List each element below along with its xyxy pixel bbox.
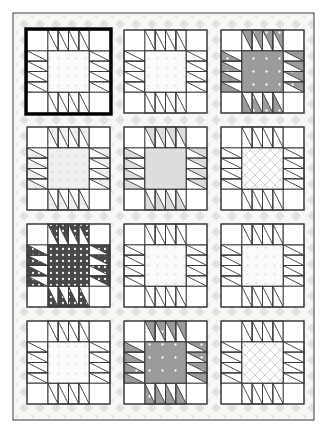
quilt-canvas [0,0,328,433]
block-corner-square [27,127,48,148]
block-center-square [48,51,90,93]
quilt-block[interactable] [27,224,110,307]
block-corner-square [221,30,242,51]
block-center-square [145,342,187,384]
block-corner-square [186,286,207,307]
block-corner-square [221,321,242,342]
block-corner-square [27,224,48,245]
block-center-square [48,245,90,287]
block-corner-square [89,321,110,342]
block-corner-square [186,321,207,342]
quilt-block[interactable] [27,127,110,210]
block-center-square [48,148,90,190]
block-center-square [145,245,187,287]
quilt-diagram [0,0,328,433]
block-corner-square [89,286,110,307]
block-corner-square [27,189,48,210]
quilt-block[interactable] [221,224,304,307]
quilt-block[interactable] [221,321,304,404]
quilt-block[interactable] [221,127,304,210]
block-corner-square [124,286,145,307]
block-center-square [242,148,284,190]
block-center-square [145,51,187,93]
block-center-square [242,342,284,384]
block-corner-square [124,127,145,148]
block-corner-square [283,321,304,342]
quilt-block[interactable] [221,30,304,113]
block-corner-square [124,92,145,113]
block-corner-square [124,383,145,404]
block-corner-square [186,189,207,210]
block-corner-square [124,189,145,210]
block-corner-square [89,383,110,404]
block-center-square [48,342,90,384]
block-corner-square [27,321,48,342]
block-corner-square [27,286,48,307]
quilt-block[interactable] [27,30,110,113]
quilt-block[interactable] [124,321,207,404]
block-corner-square [283,224,304,245]
block-corner-square [221,224,242,245]
block-corner-square [27,92,48,113]
block-corner-square [124,321,145,342]
block-corner-square [186,383,207,404]
block-corner-square [186,127,207,148]
block-corner-square [27,30,48,51]
block-corner-square [124,224,145,245]
block-center-square [242,245,284,287]
block-corner-square [283,286,304,307]
quilt-block[interactable] [124,224,207,307]
block-center-square [242,51,284,93]
block-corner-square [221,286,242,307]
block-corner-square [186,92,207,113]
block-corner-square [27,383,48,404]
quilt-block[interactable] [124,30,207,113]
block-corner-square [221,127,242,148]
block-corner-square [283,383,304,404]
block-corner-square [124,30,145,51]
block-corner-square [89,189,110,210]
block-corner-square [186,30,207,51]
block-corner-square [89,92,110,113]
block-corner-square [186,224,207,245]
block-corner-square [283,92,304,113]
block-corner-square [283,30,304,51]
block-corner-square [283,127,304,148]
block-corner-square [89,224,110,245]
quilt-block[interactable] [124,127,207,210]
block-corner-square [221,383,242,404]
block-corner-square [89,127,110,148]
block-corner-square [89,30,110,51]
block-center-square [145,148,187,190]
quilt-block[interactable] [27,321,110,404]
block-corner-square [221,189,242,210]
block-corner-square [221,92,242,113]
block-corner-square [283,189,304,210]
